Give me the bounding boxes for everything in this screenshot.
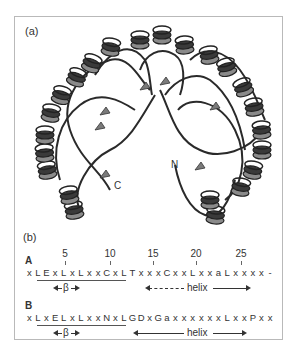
- residue: x: [206, 312, 215, 323]
- arrow-line: [213, 288, 247, 289]
- residue: x: [266, 312, 275, 323]
- residue: C: [163, 267, 172, 278]
- residue: x: [68, 267, 77, 278]
- residue: x: [231, 312, 240, 323]
- ruler-5: 5: [62, 248, 68, 259]
- helices-right: [199, 45, 272, 225]
- residue: x: [145, 267, 154, 278]
- residue: x: [85, 267, 94, 278]
- residue: x: [240, 312, 249, 323]
- helix-label: helix: [187, 282, 208, 293]
- helices-left: [35, 37, 121, 221]
- helix-label: helix: [187, 327, 208, 338]
- protein-ribbon-diagram: [0, 0, 299, 245]
- residue: x: [171, 312, 180, 323]
- residue: x: [257, 312, 266, 323]
- residue: x: [188, 312, 197, 323]
- sequence-b: xLxELxLxxNxLGDxGaxxxxxxLxxPxx: [25, 312, 285, 324]
- residue: D: [137, 312, 146, 323]
- residue: x: [42, 312, 51, 323]
- residue: x: [257, 267, 266, 278]
- residue: L: [120, 267, 129, 278]
- residue: x: [145, 312, 154, 323]
- residue: x: [111, 267, 120, 278]
- residue: x: [206, 267, 215, 278]
- residue: G: [154, 312, 163, 323]
- residue: P: [249, 312, 258, 323]
- residue: x: [94, 312, 103, 323]
- c-terminus-label: C: [114, 180, 121, 191]
- tick-mark: [110, 261, 111, 265]
- residue: L: [77, 267, 86, 278]
- residue: x: [180, 267, 189, 278]
- beta-strands: [95, 77, 220, 178]
- sequence-a-underline: [37, 280, 126, 281]
- residue: x: [85, 312, 94, 323]
- tick-mark: [196, 261, 197, 265]
- arrow-right-icon: [75, 330, 80, 336]
- residue: x: [25, 312, 34, 323]
- tick-mark: [153, 261, 154, 265]
- residue: x: [51, 267, 60, 278]
- residue: C: [102, 267, 111, 278]
- residue: x: [25, 267, 34, 278]
- residue: x: [68, 312, 77, 323]
- sequence-b-label: B: [25, 300, 32, 311]
- residue: L: [34, 312, 43, 323]
- residue: L: [34, 267, 43, 278]
- residue: x: [171, 267, 180, 278]
- ruler-25: 25: [235, 248, 246, 259]
- ruler-20: 20: [190, 248, 201, 259]
- residue: L: [59, 312, 68, 323]
- residue: E: [51, 312, 60, 323]
- residue: x: [249, 267, 258, 278]
- residue: T: [128, 267, 137, 278]
- residue: x: [94, 267, 103, 278]
- residue: x: [214, 312, 223, 323]
- residue: a: [214, 267, 223, 278]
- ruler-15: 15: [147, 248, 158, 259]
- residue: x: [154, 267, 163, 278]
- residue: E: [42, 267, 51, 278]
- sequence-a-label: A: [25, 255, 32, 266]
- arrow-line: [137, 333, 184, 334]
- arrow-right-icon: [246, 285, 251, 291]
- ruler-10: 10: [104, 248, 115, 259]
- arrow-line: [57, 288, 62, 289]
- residue: x: [231, 267, 240, 278]
- sequence-b-underline: [37, 325, 126, 326]
- residue: L: [223, 267, 232, 278]
- residue: x: [137, 267, 146, 278]
- residue: L: [188, 267, 197, 278]
- residue: x: [197, 312, 206, 323]
- arrow-line: [149, 288, 184, 290]
- residue: x: [240, 267, 249, 278]
- tick-mark: [65, 261, 66, 265]
- residue: L: [120, 312, 129, 323]
- arrow-line: [57, 333, 62, 334]
- tick-mark: [241, 261, 242, 265]
- residue: G: [128, 312, 137, 323]
- residue: a: [163, 312, 172, 323]
- residue: x: [111, 312, 120, 323]
- arrow-right-icon: [75, 285, 80, 291]
- residue: -: [266, 267, 275, 278]
- n-terminus-label: N: [171, 159, 178, 170]
- beta-label: β: [63, 282, 69, 293]
- residue: x: [180, 312, 189, 323]
- panel-b-label: (b): [23, 231, 36, 243]
- sequence-a: xLExLxLxxCxLTxxxCxxLxxaLxxxx-: [25, 267, 285, 279]
- residue: L: [59, 267, 68, 278]
- beta-label: β: [63, 327, 69, 338]
- residue: x: [197, 267, 206, 278]
- arrow-line: [213, 333, 243, 334]
- residue: N: [102, 312, 111, 323]
- arrow-right-icon: [242, 330, 247, 336]
- residue: L: [77, 312, 86, 323]
- residue: L: [223, 312, 232, 323]
